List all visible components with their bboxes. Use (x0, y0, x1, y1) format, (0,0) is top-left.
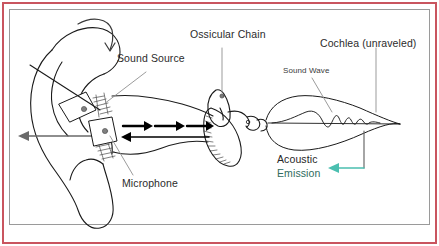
pinna-lobe (70, 159, 103, 180)
leader-sound-wave (312, 78, 332, 112)
ear-canal-lower-wall (113, 141, 208, 154)
pinna-antihelix (51, 62, 68, 136)
sound-source-transducer (59, 92, 112, 122)
outward-emission-arrowhead (18, 131, 29, 141)
sound-source-cable (93, 93, 112, 117)
label-acoustic: Acoustic (277, 153, 317, 165)
leader-sound-source (104, 72, 146, 104)
cochlea-unraveled (266, 96, 400, 151)
ear-canal-upper-wall (112, 95, 213, 116)
canal-return-arrowhead (121, 132, 131, 142)
diagram-stage: Sound Source Ossicular Chain Cochlea (un… (0, 0, 439, 246)
travelling-sound-wave (272, 111, 380, 127)
microphone-transducer (89, 117, 117, 161)
label-sound-source: Sound Source (117, 52, 185, 64)
label-cochlea: Cochlea (unraveled) (320, 37, 416, 49)
acoustic-emission-pointer (328, 131, 364, 173)
label-sound-wave: Sound Wave (283, 66, 330, 75)
label-ossicular-chain: Ossicular Chain (190, 28, 266, 40)
figure-frame: Sound Source Ossicular Chain Cochlea (un… (0, 0, 439, 246)
label-emission: Emission (277, 167, 320, 179)
leader-microphone (110, 136, 133, 175)
label-microphone: Microphone (122, 177, 178, 189)
pinna-curl-arrow-shaft (78, 19, 113, 50)
